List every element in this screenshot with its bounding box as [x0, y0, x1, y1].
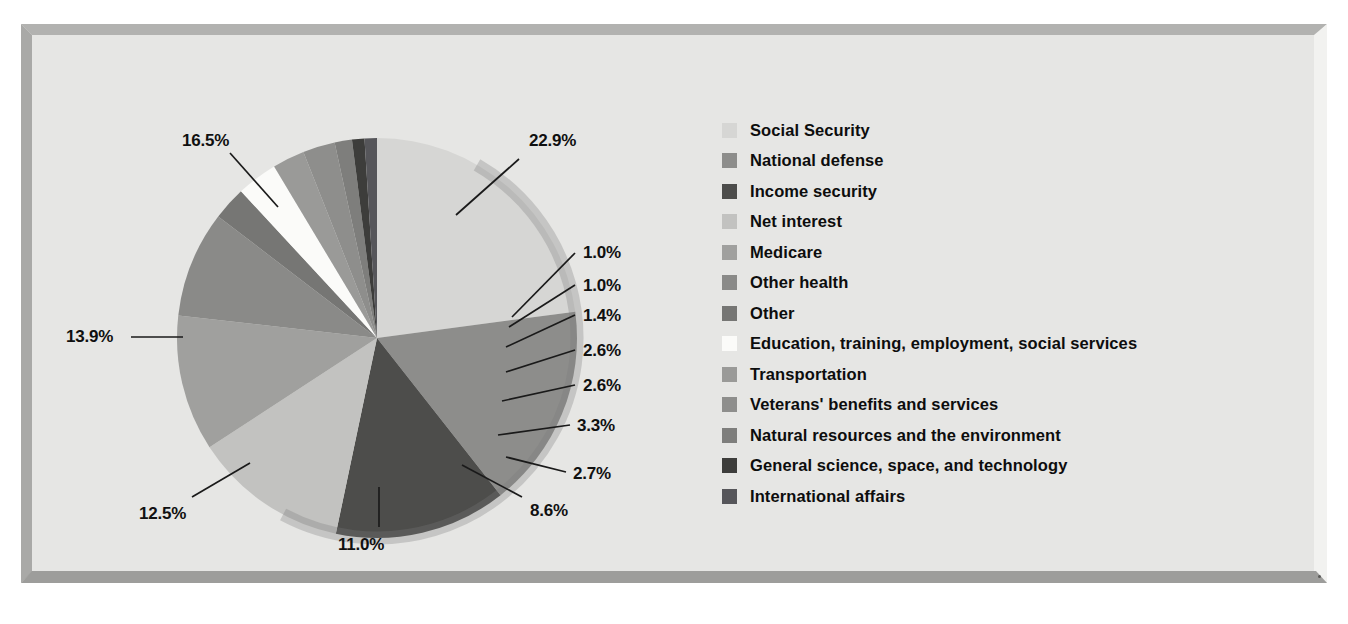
legend-swatch-icon — [722, 184, 737, 199]
pie-percent-label: 1.0% — [583, 243, 621, 263]
pie-percent-label: 11.0% — [338, 535, 384, 555]
legend-item-label: Income security — [750, 182, 877, 201]
pie-percent-label: 16.5% — [182, 131, 229, 151]
pie-percent-label: 13.9% — [66, 327, 113, 347]
legend-item[interactable]: National defense — [722, 146, 1302, 177]
legend-swatch-icon — [722, 306, 737, 321]
pie-percent-label: 1.4% — [583, 306, 621, 326]
legend-swatch-icon — [722, 397, 737, 412]
legend-swatch-icon — [722, 245, 737, 260]
pie-chart: 22.9%16.5%13.9%12.5%11.0%8.6%2.7%3.3%2.6… — [32, 35, 732, 571]
pie-percent-label: 22.9% — [529, 131, 576, 151]
legend-item-label: Transportation — [750, 365, 867, 384]
legend-swatch-icon — [722, 214, 737, 229]
pie-percent-label: 8.6% — [530, 501, 568, 521]
print-speck — [1318, 575, 1321, 578]
legend-item-label: Veterans' benefits and services — [750, 395, 998, 414]
legend-swatch-icon — [722, 458, 737, 473]
legend-swatch-icon — [722, 336, 737, 351]
legend-swatch-icon — [722, 428, 737, 443]
figure-frame: 22.9%16.5%13.9%12.5%11.0%8.6%2.7%3.3%2.6… — [21, 24, 1327, 583]
chart-plot-area: 22.9%16.5%13.9%12.5%11.0%8.6%2.7%3.3%2.6… — [32, 35, 1314, 571]
legend-item[interactable]: General science, space, and technology — [722, 451, 1302, 482]
legend-item-label: Other — [750, 304, 795, 323]
legend-item-label: Other health — [750, 273, 848, 292]
frame-bevel-bottom — [21, 571, 1327, 583]
legend-swatch-icon — [722, 275, 737, 290]
legend-item-label: General science, space, and technology — [750, 456, 1067, 475]
legend-item-label: Medicare — [750, 243, 822, 262]
legend-item-label: Education, training, employment, social … — [750, 334, 1137, 353]
legend-item[interactable]: Income security — [722, 176, 1302, 207]
legend-item-label: Natural resources and the environment — [750, 426, 1061, 445]
legend-item[interactable]: Natural resources and the environment — [722, 420, 1302, 451]
legend-item[interactable]: Other — [722, 298, 1302, 329]
pie-svg — [32, 35, 732, 571]
pie-percent-label: 3.3% — [577, 416, 615, 436]
pie-percent-label: 12.5% — [139, 504, 186, 524]
pie-percent-label: 2.7% — [573, 464, 611, 484]
legend-item[interactable]: Veterans' benefits and services — [722, 390, 1302, 421]
legend-item[interactable]: International affairs — [722, 481, 1302, 512]
legend-item[interactable]: Education, training, employment, social … — [722, 329, 1302, 360]
legend-item[interactable]: Medicare — [722, 237, 1302, 268]
legend-item[interactable]: Net interest — [722, 207, 1302, 238]
chart-legend: Social SecurityNational defenseIncome se… — [722, 115, 1302, 512]
pie-percent-label: 2.6% — [583, 376, 621, 396]
frame-bevel-left — [21, 24, 32, 583]
legend-item[interactable]: Other health — [722, 268, 1302, 299]
legend-item-label: International affairs — [750, 487, 905, 506]
legend-swatch-icon — [722, 489, 737, 504]
legend-item[interactable]: Social Security — [722, 115, 1302, 146]
pie-percent-label: 2.6% — [583, 341, 621, 361]
legend-swatch-icon — [722, 367, 737, 382]
legend-item-label: Net interest — [750, 212, 842, 231]
legend-item-label: Social Security — [750, 121, 870, 140]
legend-swatch-icon — [722, 123, 737, 138]
legend-item[interactable]: Transportation — [722, 359, 1302, 390]
frame-bevel-right — [1314, 24, 1327, 583]
legend-swatch-icon — [722, 153, 737, 168]
pie-percent-label: 1.0% — [583, 276, 621, 296]
legend-item-label: National defense — [750, 151, 884, 170]
frame-bevel-top — [21, 24, 1327, 35]
